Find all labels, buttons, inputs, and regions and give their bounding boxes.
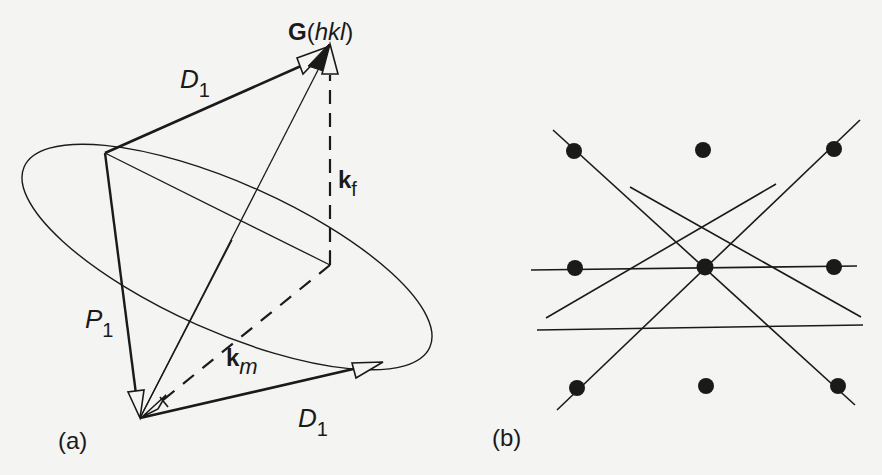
- label-p1-sub: 1: [102, 319, 113, 341]
- lattice-point: [566, 143, 582, 159]
- apex-label: G(hkl): [288, 18, 353, 45]
- panel-a-labels: G(hkl) D1 kf P1 km D1 (a): [58, 18, 357, 454]
- lattice-point: [697, 259, 714, 276]
- lattice-line-shallow-falling: [630, 187, 861, 317]
- apex-label-paren-close: ): [345, 18, 353, 45]
- label-d1-bottom-sub: 1: [317, 418, 328, 440]
- label-kf-sub: f: [351, 178, 357, 200]
- vector-thin-from-g: [140, 240, 232, 418]
- panel-b-label: (b): [492, 424, 521, 451]
- lattice-point: [826, 259, 842, 275]
- label-d1-bottom-base: D: [298, 403, 317, 433]
- label-kf-base: k: [338, 166, 352, 193]
- figure: G(hkl) D1 kf P1 km D1 (a): [0, 0, 882, 475]
- lattice-line-horizontal-2: [537, 325, 863, 330]
- lattice-point: [569, 380, 585, 396]
- apex-label-hkl: hkl: [315, 18, 346, 45]
- lattice-point: [826, 141, 842, 157]
- lattice-point: [695, 142, 711, 158]
- label-kf: kf: [338, 166, 357, 200]
- apex-label-paren-open: (: [307, 18, 315, 45]
- apex-label-bold: G: [288, 18, 307, 45]
- lattice-point: [830, 378, 846, 394]
- label-km: km: [226, 344, 258, 379]
- lattice-point: [698, 378, 714, 394]
- label-d1-bottom: D1: [298, 403, 328, 440]
- panel-a-label: (a): [58, 427, 87, 454]
- label-km-sub: m: [239, 354, 257, 379]
- lattice-point: [567, 260, 583, 276]
- vector-d1-top: [105, 62, 310, 153]
- label-p1: P1: [85, 304, 113, 341]
- label-d1-top-sub: 1: [199, 79, 210, 101]
- label-p1-base: P: [85, 304, 103, 334]
- label-d1-top-base: D: [180, 64, 199, 94]
- label-km-base: k: [226, 344, 240, 371]
- label-d1-top: D1: [180, 64, 210, 101]
- vector-p1: [105, 153, 136, 394]
